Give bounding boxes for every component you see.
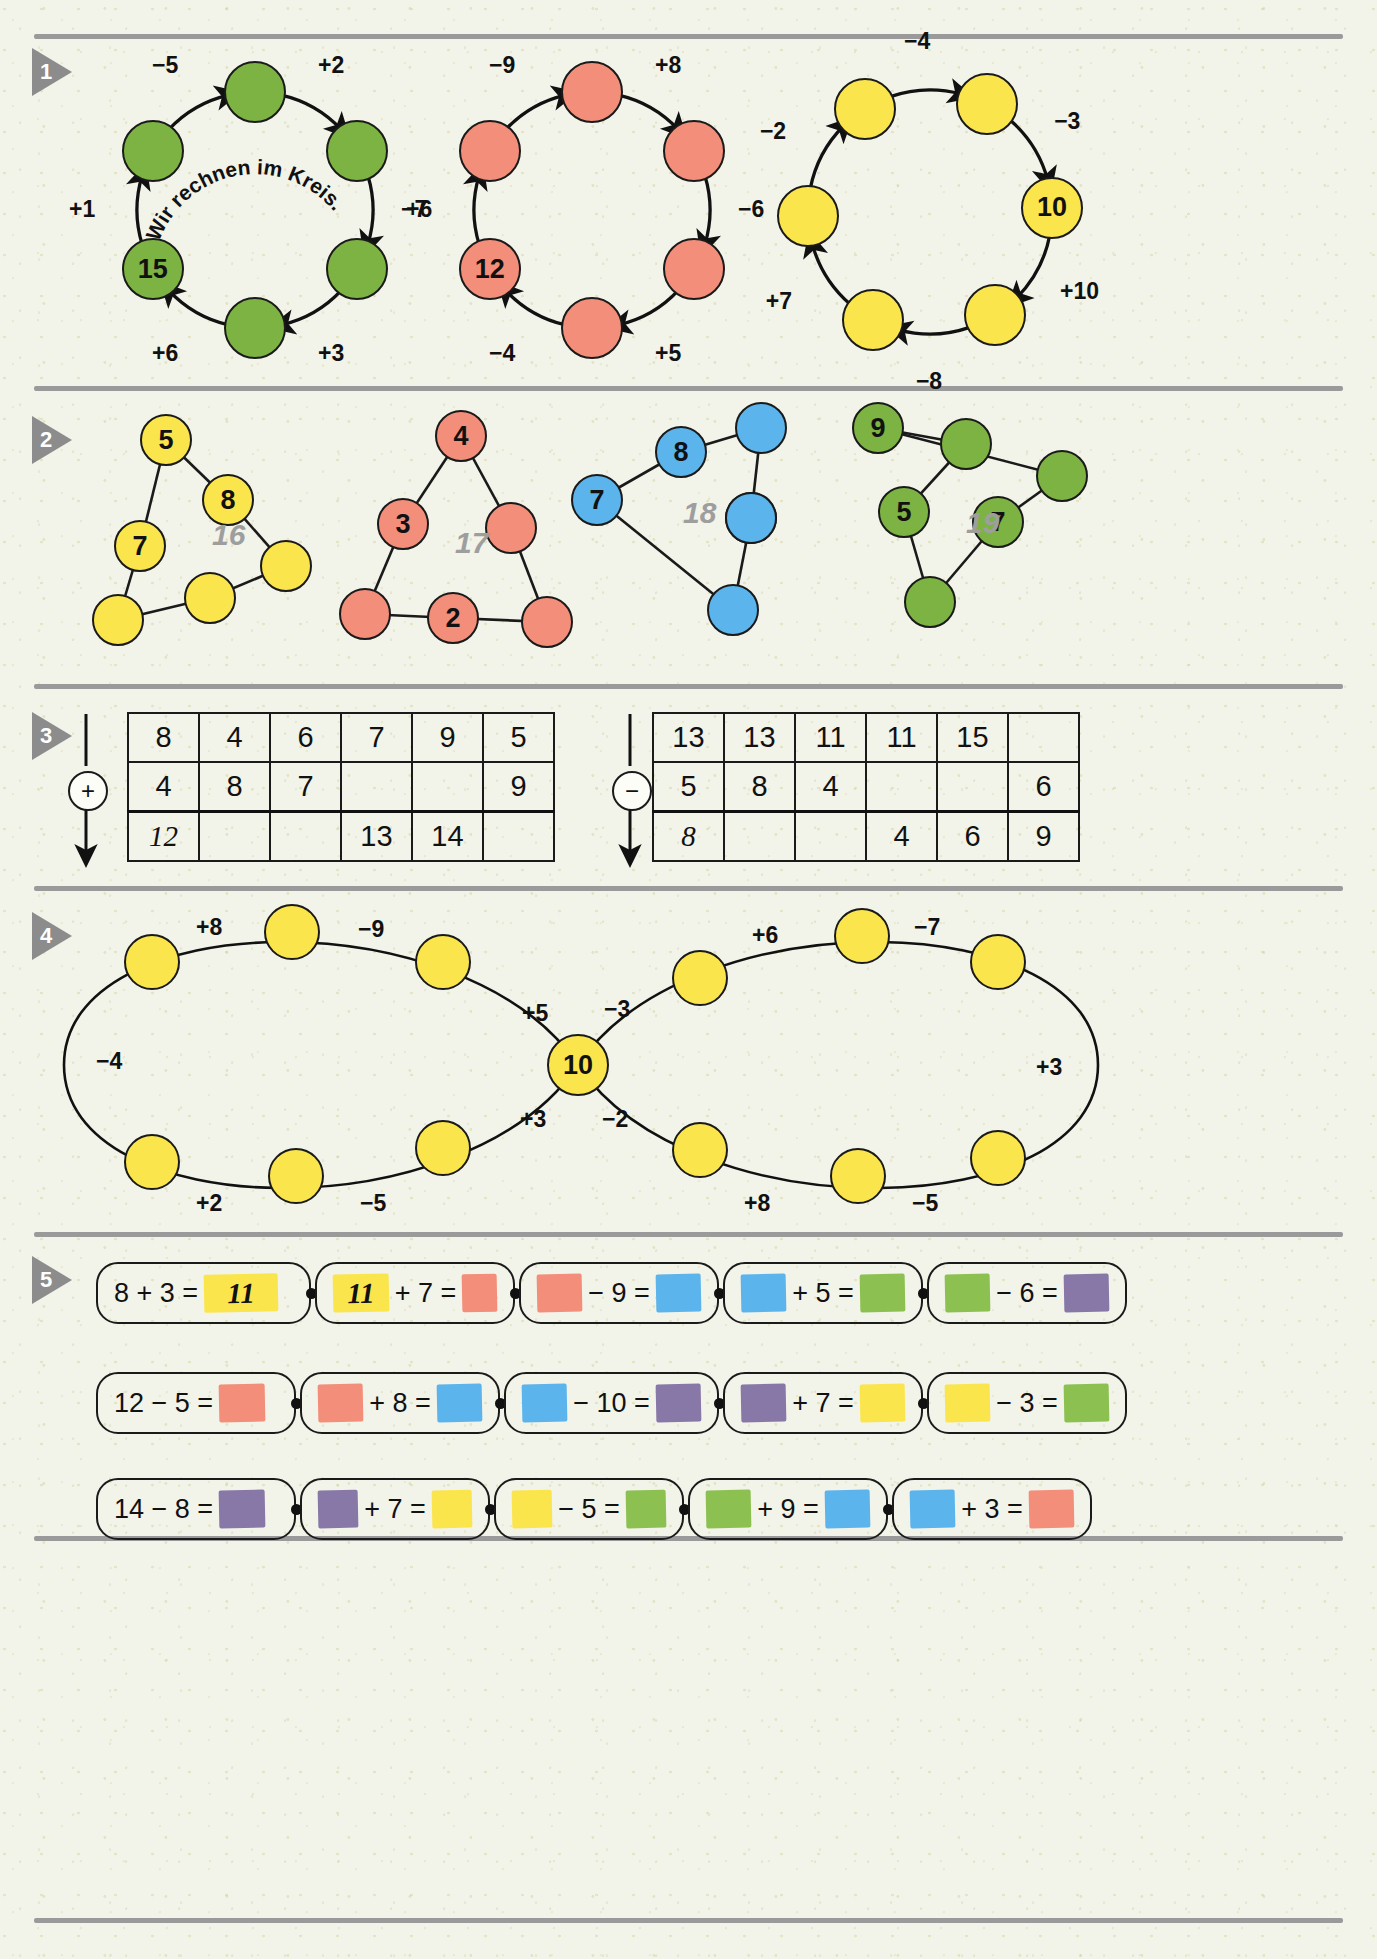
chain-row-2-link-4[interactable]: − 3 = [927, 1372, 1127, 1434]
circle-yellow-node-1[interactable]: 10 [1021, 177, 1083, 239]
table-cell-r0-c2[interactable]: 6 [270, 713, 341, 762]
chain-row-1-link-3-right-swatch[interactable] [859, 1274, 905, 1313]
table-cell-r1-c3[interactable] [341, 762, 412, 812]
figure-eight-chain-node-10[interactable] [830, 1148, 886, 1204]
chain-row-2-link-3-right-swatch[interactable] [859, 1384, 905, 1423]
table-cell-r1-c0[interactable]: 4 [128, 762, 199, 812]
figure-eight-chain-node-2[interactable] [415, 934, 471, 990]
chain-row-2-link-2-left-swatch[interactable] [522, 1384, 568, 1423]
chain-row-2-link-0[interactable]: 12 − 5 = [96, 1372, 296, 1434]
chain-row-2-link-2[interactable]: − 10 = [504, 1372, 719, 1434]
table-cell-r2-c4[interactable]: 14 [412, 812, 483, 862]
tri-yellow-node-0[interactable]: 5 [140, 414, 192, 466]
tri-blue-node-1[interactable]: 7 [571, 474, 623, 526]
chain-row-3-link-1-left-swatch[interactable] [318, 1490, 359, 1529]
tri-blue-node-5[interactable] [725, 492, 777, 544]
chain-row-1-link-1[interactable]: 11+ 7 = [315, 1262, 515, 1324]
figure-eight-chain-center-node[interactable]: 10 [547, 1034, 609, 1096]
chain-row-3-link-3-right-swatch[interactable] [824, 1490, 870, 1529]
tri-yellow-node-4[interactable] [184, 572, 236, 624]
tri-yellow-node-1[interactable]: 7 [114, 520, 166, 572]
figure-eight-chain-node-8[interactable] [970, 934, 1026, 990]
chain-row-1-link-2-left-swatch[interactable] [537, 1274, 583, 1313]
chain-row-1-link-2-right-swatch[interactable] [655, 1274, 701, 1313]
tri-red-node-2[interactable] [485, 502, 537, 554]
chain-row-2-link-1-left-swatch[interactable] [318, 1384, 364, 1423]
table-cell-r1-c1[interactable]: 8 [199, 762, 270, 812]
chain-row-2-link-2-right-swatch[interactable] [655, 1384, 701, 1423]
chain-row-2-link-3[interactable]: + 7 = [723, 1372, 923, 1434]
circle-red-node-3[interactable] [561, 297, 623, 359]
table-cell-r1-c0[interactable]: 5 [653, 762, 724, 812]
tri-blue-node-3[interactable] [735, 402, 787, 454]
table-cell-r2-c5[interactable]: 9 [1008, 812, 1079, 862]
table-cell-r0-c3[interactable]: 11 [866, 713, 937, 762]
circle-yellow-node-3[interactable] [842, 289, 904, 351]
table-cell-r1-c3[interactable] [866, 762, 937, 812]
chain-row-1-link-2[interactable]: − 9 = [519, 1262, 719, 1324]
chain-row-3-link-0-right-swatch[interactable] [219, 1490, 266, 1529]
chain-row-2-link-1-right-swatch[interactable] [436, 1384, 482, 1423]
table-cell-r1-c4[interactable] [937, 762, 1008, 812]
table-cell-r0-c5[interactable]: 5 [483, 713, 554, 762]
table-cell-r0-c5[interactable] [1008, 713, 1079, 762]
table-cell-r0-c1[interactable]: 13 [724, 713, 795, 762]
chain-row-1-link-1-right-swatch[interactable] [462, 1274, 497, 1313]
chain-row-3-link-4[interactable]: + 3 = [892, 1478, 1092, 1540]
chain-row-3-link-3[interactable]: + 9 = [688, 1478, 888, 1540]
tri-green-node-0[interactable] [940, 418, 992, 470]
tri-red-node-1[interactable]: 3 [377, 498, 429, 550]
figure-eight-chain-node-3[interactable] [124, 1134, 180, 1190]
chain-row-1-link-4-left-swatch[interactable] [945, 1274, 991, 1313]
circle-red-node-1[interactable] [663, 120, 725, 182]
table-cell-r0-c4[interactable]: 15 [937, 713, 1008, 762]
table-cell-r1-c1[interactable]: 8 [724, 762, 795, 812]
figure-eight-chain-node-1[interactable] [264, 904, 320, 960]
circle-yellow-node-4[interactable] [777, 185, 839, 247]
chain-row-2-link-1[interactable]: + 8 = [300, 1372, 500, 1434]
chain-row-1-link-3-left-swatch[interactable] [741, 1274, 787, 1313]
table-cell-r1-c5[interactable]: 9 [483, 762, 554, 812]
table-cell-r0-c4[interactable]: 9 [412, 713, 483, 762]
tri-blue-node-4[interactable] [707, 584, 759, 636]
chain-row-2-link-4-right-swatch[interactable] [1063, 1384, 1109, 1423]
tri-green-node-1[interactable]: 5 [878, 486, 930, 538]
figure-eight-chain-node-9[interactable] [672, 1122, 728, 1178]
table-cell-r0-c0[interactable]: 13 [653, 713, 724, 762]
table-cell-r0-c1[interactable]: 4 [199, 713, 270, 762]
table-cell-r2-c3[interactable]: 13 [341, 812, 412, 862]
tri-green-node-5[interactable] [1036, 450, 1088, 502]
table-addition[interactable]: 8467954879121314 [127, 712, 555, 862]
table-cell-r1-c5[interactable]: 6 [1008, 762, 1079, 812]
table-cell-r1-c4[interactable] [412, 762, 483, 812]
table-cell-r2-c1[interactable] [199, 812, 270, 862]
tri-green-node-4[interactable] [904, 576, 956, 628]
chain-row-1-link-0-right-swatch[interactable]: 11 [204, 1273, 279, 1313]
circle-red-node-2[interactable] [663, 238, 725, 300]
circle-green-node-3[interactable] [224, 297, 286, 359]
circle-red-node-5[interactable] [459, 120, 521, 182]
chain-row-3-link-4-left-swatch[interactable] [910, 1490, 956, 1529]
chain-row-1-link-3[interactable]: + 5 = [723, 1262, 923, 1324]
table-subtraction[interactable]: 131311111558468469 [652, 712, 1080, 862]
chain-row-1-link-1-left-swatch[interactable]: 11 [333, 1273, 390, 1312]
table-cell-r2-c2[interactable] [795, 812, 866, 862]
table-cell-r0-c2[interactable]: 11 [795, 713, 866, 762]
circle-yellow-node-2[interactable] [964, 284, 1026, 346]
figure-eight-chain-node-0[interactable] [124, 934, 180, 990]
tri-red-node-4[interactable]: 2 [427, 592, 479, 644]
chain-row-3-link-4-right-swatch[interactable] [1028, 1490, 1074, 1529]
tri-yellow-node-3[interactable] [92, 594, 144, 646]
chain-row-3-link-1[interactable]: + 7 = [300, 1478, 490, 1540]
tri-red-node-5[interactable] [521, 596, 573, 648]
table-cell-r2-c0[interactable]: 8 [653, 812, 724, 862]
tri-red-node-3[interactable] [339, 588, 391, 640]
figure-eight-chain-node-4[interactable] [268, 1148, 324, 1204]
table-cell-r2-c4[interactable]: 6 [937, 812, 1008, 862]
chain-row-2-link-3-left-swatch[interactable] [741, 1384, 787, 1423]
tri-blue-node-0[interactable]: 8 [655, 426, 707, 478]
chain-row-3-link-2-left-swatch[interactable] [512, 1490, 553, 1529]
chain-row-3-link-2-right-swatch[interactable] [625, 1490, 666, 1529]
table-cell-r2-c0[interactable]: 12 [128, 812, 199, 862]
circle-red-node-4[interactable]: 12 [459, 238, 521, 300]
